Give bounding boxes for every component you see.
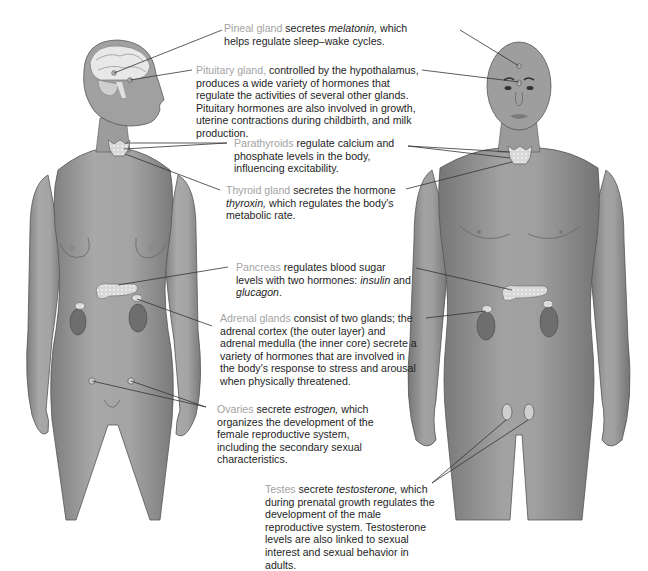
label-ovaries: Ovaries secrete estrogen, which organize… — [217, 403, 377, 466]
label-testes: Testes secrete testosterone, which durin… — [265, 483, 437, 571]
label-parathyroids: Parathyroids regulate calcium and phosph… — [234, 137, 406, 175]
female-figure — [27, 40, 201, 520]
term-pancreas: Pancreas — [236, 261, 281, 273]
term-thyroid-gland: Thyroid gland — [226, 184, 290, 196]
label-pineal-gland: Pineal gland secretes melatonin, which h… — [224, 22, 434, 47]
male-figure — [408, 42, 630, 520]
term-adrenal-glands: Adrenal glands — [220, 312, 291, 324]
term-testes: Testes — [265, 483, 296, 495]
term-ovaries: Ovaries — [217, 403, 254, 415]
label-pituitary-gland: Pituitary gland, controlled by the hypot… — [196, 64, 424, 140]
term-pituitary-gland: Pituitary gland, — [196, 64, 266, 76]
label-pancreas: Pancreas regulates blood sugar levels wi… — [236, 261, 412, 299]
term-parathyroids: Parathyroids — [234, 137, 293, 149]
label-adrenal-glands: Adrenal glands consist of two glands; th… — [220, 312, 420, 388]
term-pineal-gland: Pineal gland — [224, 22, 282, 34]
label-thyroid-gland: Thyroid gland secretes the hormone thyro… — [226, 184, 398, 222]
